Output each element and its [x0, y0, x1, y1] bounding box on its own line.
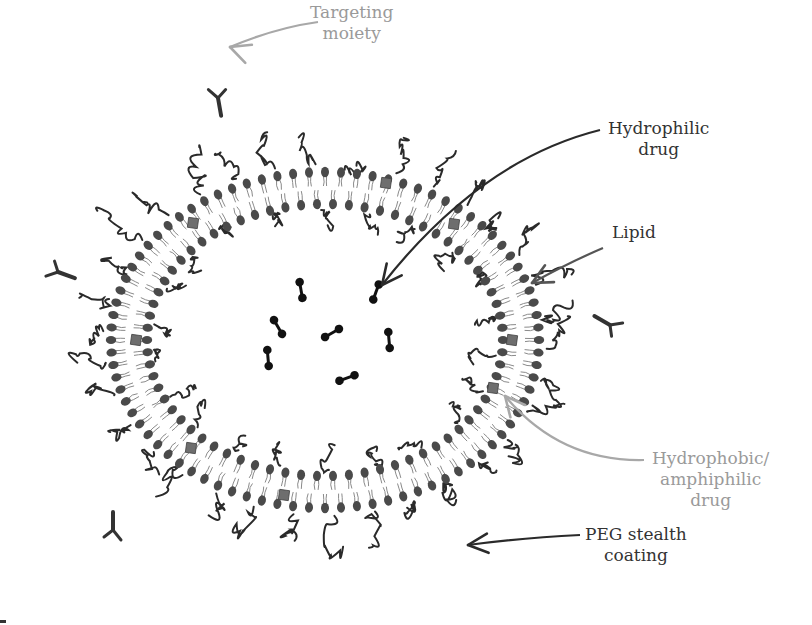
lipid-head [360, 467, 370, 479]
lipid-tail [292, 178, 293, 188]
lipid-tail [504, 311, 514, 313]
lipid-head [329, 471, 337, 482]
lipid-tail [492, 249, 500, 256]
lipid-tail [235, 479, 239, 488]
lipid-head [273, 170, 283, 182]
lipid-head [305, 167, 314, 178]
lipid-tail [276, 180, 278, 190]
peg-chain [234, 436, 247, 451]
label-line: Lipid [612, 222, 656, 243]
lipid-tail [264, 487, 266, 497]
lipid-tail [292, 492, 294, 502]
lipid-tail [308, 177, 309, 187]
lipid-tail [268, 474, 271, 484]
peg-chain [281, 514, 298, 541]
lipid-tail [517, 383, 526, 387]
lipid-head [464, 457, 477, 470]
lipid-tail [506, 354, 516, 356]
lipid-head [142, 336, 152, 344]
lipid-tail [398, 187, 401, 197]
peg-chain [519, 223, 539, 255]
lipid-tail [409, 207, 413, 216]
peg-chain [434, 151, 456, 187]
lipid-tail [159, 434, 166, 441]
peg-chain [468, 349, 495, 365]
lipid-tail [379, 197, 381, 207]
drug-atom [333, 323, 345, 335]
lipid-tail [500, 379, 509, 382]
hydrophobic-drug-square [506, 334, 517, 345]
lipid-head [344, 200, 353, 211]
lipid-head [523, 285, 536, 296]
lipid-head [398, 177, 409, 189]
lipid-head [108, 310, 120, 320]
peg-chain [398, 441, 422, 449]
lipid-head [166, 403, 179, 416]
lipid-tail [129, 394, 138, 399]
peg-chain [443, 481, 457, 505]
lipid-tail [298, 192, 299, 202]
lipid-head [464, 210, 477, 223]
lipid-tail [249, 202, 252, 212]
lipid-tail [130, 397, 139, 402]
lipid-tail [331, 480, 332, 490]
label-peg-coating: PEG stealth coating [585, 524, 687, 566]
lipid-tail [423, 213, 428, 222]
peg-chain [365, 512, 381, 548]
peg-chain [154, 324, 171, 336]
lipid-tail [354, 492, 355, 502]
lipid-head [412, 182, 423, 195]
liposome-diagram: Targeting moiety Hydrophilic drug Lipid … [0, 0, 812, 625]
lipid-tail [118, 364, 128, 366]
drug-atom [385, 343, 394, 352]
lipid-tail [264, 183, 266, 193]
lipid-tail [140, 376, 149, 379]
lipid-head [142, 323, 153, 332]
lipid-tail [488, 272, 497, 277]
lipid-head [390, 209, 401, 221]
peg-stealth-coating [69, 132, 574, 558]
lipid-head [289, 500, 298, 511]
label-line: PEG stealth [585, 524, 687, 545]
lipid-head [533, 323, 544, 332]
lipid-tail [314, 190, 315, 200]
lipid-tail [398, 202, 401, 212]
lipid-tail [386, 487, 388, 497]
lipid-head [106, 323, 117, 332]
lipid-tail [117, 361, 127, 363]
label-line: drug [608, 139, 709, 160]
lipid-tail [314, 480, 315, 490]
lipid-head [110, 372, 122, 383]
ligand-arm [51, 261, 61, 272]
lipid-head [289, 168, 298, 179]
hydrophobic-drug-square [448, 218, 459, 229]
lipid-head [119, 395, 132, 407]
peg-chain [504, 440, 522, 464]
lipid-tail [482, 263, 490, 269]
lipid-tail [261, 487, 263, 497]
drug-atom [295, 277, 305, 287]
lipid-tail [252, 201, 255, 211]
lipid-tail [348, 479, 349, 489]
lipid-tail [506, 328, 516, 329]
lipid-tail [145, 288, 154, 292]
lipid-head [241, 490, 252, 502]
peg-chain [69, 353, 106, 369]
label-line: Hydrophobic/ [652, 448, 769, 469]
lipid-head [383, 495, 393, 507]
label-line: Hydrophilic [608, 118, 709, 139]
lipid-tail [136, 364, 146, 366]
drug-atom [384, 327, 393, 336]
lipid-head [527, 297, 539, 308]
lipid-tail [395, 201, 398, 211]
peg-chain [170, 385, 196, 398]
lipid-head [212, 479, 224, 492]
lipid-tail [125, 291, 134, 295]
ligand-stem [218, 98, 221, 116]
lipid-head [281, 202, 291, 214]
hydrophilic-drug-molecule [263, 345, 274, 370]
lipid-tail [426, 456, 431, 465]
lipid-tail [398, 484, 401, 494]
lipid-tail [474, 443, 480, 451]
lipid-head [360, 202, 370, 214]
